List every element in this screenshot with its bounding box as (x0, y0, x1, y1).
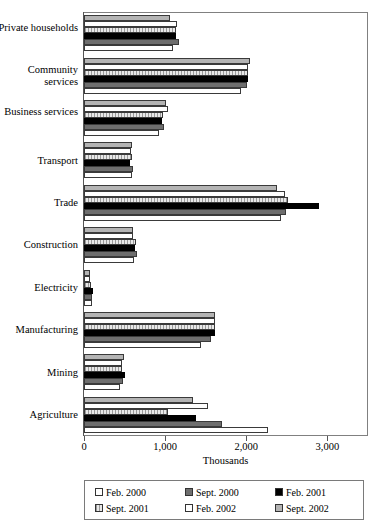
bar (84, 342, 201, 348)
category-label: Mining (0, 367, 78, 379)
x-axis-title: Thousands (83, 455, 368, 466)
category-label: Agriculture (0, 409, 78, 421)
category-group: Electricity (0, 266, 376, 308)
chart-legend: Feb. 2000Sept. 2000Feb. 2001Sept. 2001Fe… (84, 480, 364, 520)
legend-item[interactable]: Sept. 2002 (269, 503, 359, 514)
plot-area: Private householdsCommunity servicesBusi… (0, 0, 376, 445)
bar (84, 257, 134, 263)
category-label: Community services (0, 64, 78, 87)
category-group: Mining (0, 351, 376, 393)
legend-swatch-icon (95, 488, 103, 496)
legend-item[interactable]: Sept. 2000 (179, 487, 269, 498)
legend-label: Feb. 2001 (286, 487, 326, 498)
x-axis-tick-label: 1,000 (153, 441, 177, 452)
bar-group (84, 270, 93, 306)
legend-item[interactable]: Sept. 2001 (89, 503, 179, 514)
bar (84, 300, 92, 306)
legend-swatch-icon (275, 488, 283, 496)
legend-swatch-icon (185, 504, 193, 512)
bar-group (84, 397, 268, 433)
category-label: Construction (0, 239, 78, 251)
bar-group (84, 354, 125, 390)
category-label: Transport (0, 155, 78, 167)
x-axis-tick-label: 2,000 (234, 441, 258, 452)
horizontal-bar-chart: Private householdsCommunity servicesBusi… (0, 0, 376, 530)
bar (84, 215, 281, 221)
category-group: Private households (0, 12, 376, 54)
legend-label: Feb. 2002 (196, 503, 236, 514)
bar (84, 427, 268, 433)
legend-label: Sept. 2001 (106, 503, 149, 514)
category-group: Agriculture (0, 394, 376, 436)
bar-group (84, 58, 250, 94)
category-group: Manufacturing (0, 309, 376, 351)
legend-swatch-icon (185, 488, 193, 496)
legend-label: Feb. 2000 (106, 487, 146, 498)
category-group: Community services (0, 54, 376, 96)
category-label: Electricity (0, 282, 78, 294)
category-group: Construction (0, 224, 376, 266)
legend-label: Sept. 2000 (196, 487, 239, 498)
bar-group (84, 142, 133, 178)
bar (84, 384, 120, 390)
category-label: Private households (0, 22, 78, 34)
bar (84, 45, 173, 51)
bar (84, 88, 241, 94)
bar-group (84, 100, 168, 136)
category-label: Business services (0, 106, 78, 118)
x-axis-tick-label: 0 (81, 441, 86, 452)
legend-swatch-icon (275, 504, 283, 512)
x-axis-tick-label: 3,000 (316, 441, 340, 452)
category-group: Transport (0, 139, 376, 181)
category-label: Trade (0, 197, 78, 209)
bar-group (84, 15, 179, 51)
bar-group (84, 227, 137, 263)
legend-item[interactable]: Feb. 2000 (89, 487, 179, 498)
legend-item[interactable]: Feb. 2002 (179, 503, 269, 514)
bar (84, 130, 159, 136)
legend-label: Sept. 2002 (286, 503, 329, 514)
category-group: Business services (0, 97, 376, 139)
legend-swatch-icon (95, 504, 103, 512)
category-group: Trade (0, 182, 376, 224)
bar-group (84, 185, 319, 221)
legend-item[interactable]: Feb. 2001 (269, 487, 359, 498)
category-label: Manufacturing (0, 324, 78, 336)
bar (84, 172, 132, 178)
bar-group (84, 312, 215, 348)
